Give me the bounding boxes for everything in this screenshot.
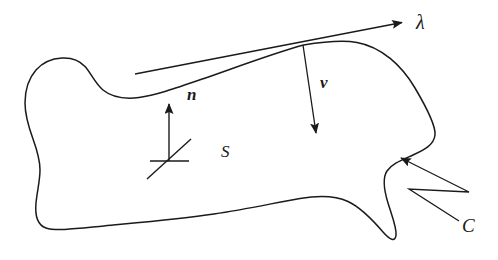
nu-conormal-arrow: [303, 45, 316, 133]
lambda-tangent-arrow: [135, 23, 402, 75]
surface-boundary-curve: [25, 41, 435, 239]
c-leader-zigzag-arrow: [401, 158, 469, 221]
figure-canvas: λ ν n S C: [0, 0, 498, 260]
conormal-vector-label: ν: [320, 74, 328, 91]
surface-diagram-svg: [0, 0, 498, 260]
boundary-curve-label: C: [462, 216, 475, 235]
normal-vector-label: n: [187, 86, 196, 103]
tangent-vector-label: λ: [416, 12, 425, 32]
surface-label: S: [221, 143, 230, 160]
